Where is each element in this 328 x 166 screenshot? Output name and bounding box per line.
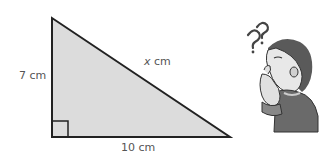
question-mark-icon: [248, 23, 268, 53]
hypotenuse-unit: cm: [151, 55, 171, 68]
vertical-side-label: 7 cm: [19, 69, 46, 82]
hypotenuse-label: x cm: [144, 55, 171, 68]
horizontal-side-label: 10 cm: [121, 141, 155, 154]
right-triangle: [52, 18, 230, 137]
confused-person-illustration: [248, 23, 318, 132]
triangle-diagram: [0, 0, 328, 166]
